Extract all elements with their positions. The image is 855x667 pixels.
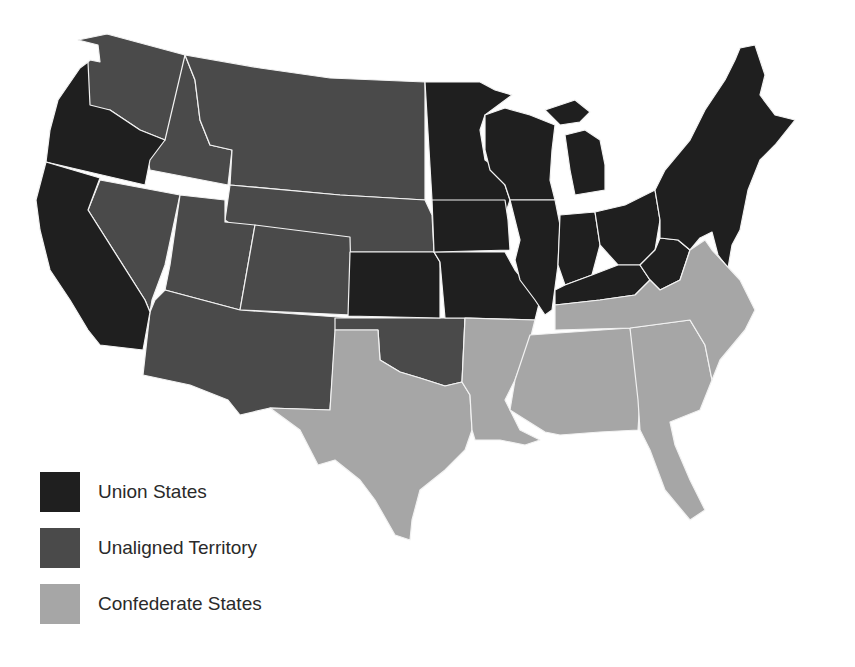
legend-item-union: Union States [40, 472, 262, 512]
michigan [545, 100, 605, 195]
iowa [432, 200, 510, 252]
confederate-swatch [40, 584, 80, 624]
ohio [595, 190, 660, 265]
legend-label: Confederate States [98, 593, 262, 615]
unaligned-territory-region [76, 34, 465, 415]
mississippi-alabama [510, 328, 640, 435]
georgia-florida [630, 320, 712, 520]
colorado-territory [240, 225, 352, 315]
kansas [348, 252, 440, 318]
unaligned-swatch [40, 528, 80, 568]
legend-item-confederate: Confederate States [40, 584, 262, 624]
legend-item-unaligned: Unaligned Territory [40, 528, 262, 568]
union-swatch [40, 472, 80, 512]
legend-label: Unaligned Territory [98, 537, 257, 559]
legend-label: Union States [98, 481, 207, 503]
map-legend: Union States Unaligned Territory Confede… [40, 472, 262, 640]
pennsylvania-ny-ne [655, 45, 795, 268]
